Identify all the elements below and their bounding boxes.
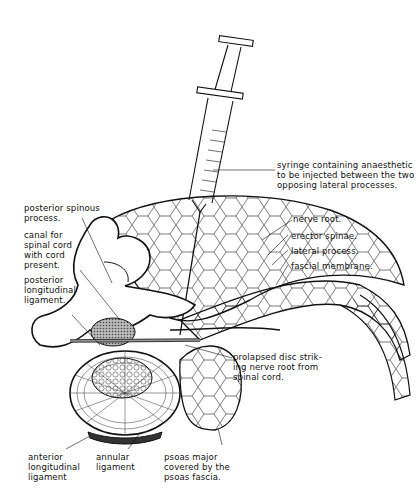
label-canal-spinal-cord: canal for spinal cord with cord present.	[24, 230, 72, 270]
label-syringe: syringe containing anaesthetic to be inj…	[277, 160, 414, 190]
label-nerve-root: nerve root.	[293, 214, 341, 224]
label-posterior-longitudinal-ligament: posterior longitudinal ligament.	[24, 275, 76, 305]
nucleus	[92, 358, 152, 398]
label-prolapsed-disc: prolapsed disc strik- ing nerve root fro…	[233, 352, 322, 382]
label-lateral-process: lateral process.	[291, 246, 359, 256]
label-posterior-spinous-process: posterior spinous process.	[24, 203, 100, 223]
label-fascial-membrane: fascial membrane.	[291, 261, 373, 271]
label-psoas-major: psoas major covered by the psoas fascia.	[164, 452, 230, 482]
label-anterior-longitudinal-ligament: anterior longitudinal ligament	[28, 452, 80, 482]
label-annular-ligament: annular ligament	[96, 452, 135, 472]
label-erector-spinae: erector spinae.	[291, 231, 357, 241]
